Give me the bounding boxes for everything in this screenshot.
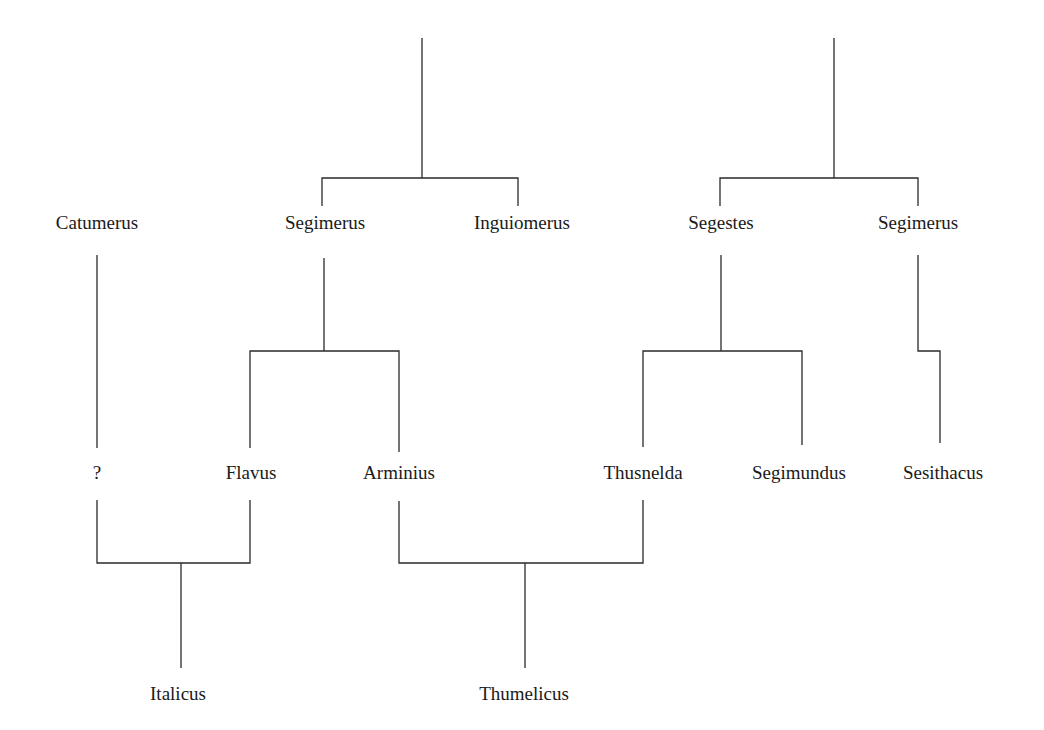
person-unknown: ? — [93, 463, 101, 482]
segestes-children-bracket — [643, 351, 802, 447]
root1-bracket — [322, 178, 518, 206]
person-segimerus-2: Segimerus — [878, 213, 958, 232]
person-thumelicus: Thumelicus — [479, 684, 569, 703]
person-catumerus: Catumerus — [56, 213, 138, 232]
root2-bracket — [720, 178, 918, 206]
person-sesithacus: Sesithacus — [903, 463, 983, 482]
person-italicus: Italicus — [150, 684, 206, 703]
person-thusnelda: Thusnelda — [603, 463, 682, 482]
person-arminius: Arminius — [363, 463, 435, 482]
segimerus2-to-sesithacus — [918, 255, 940, 443]
arminius-thusnelda-bracket — [399, 500, 643, 563]
person-inguiomerus: Inguiomerus — [474, 213, 570, 232]
person-segestes: Segestes — [688, 213, 753, 232]
unknown-flavus-bracket — [97, 500, 250, 563]
person-flavus: Flavus — [226, 463, 277, 482]
tree-connectors — [0, 0, 1044, 730]
segimerus-children-bracket — [250, 351, 399, 452]
person-segimundus: Segimundus — [752, 463, 846, 482]
family-tree-diagram: Catumerus Segimerus Inguiomerus Segestes… — [0, 0, 1044, 730]
person-segimerus-1: Segimerus — [285, 213, 365, 232]
